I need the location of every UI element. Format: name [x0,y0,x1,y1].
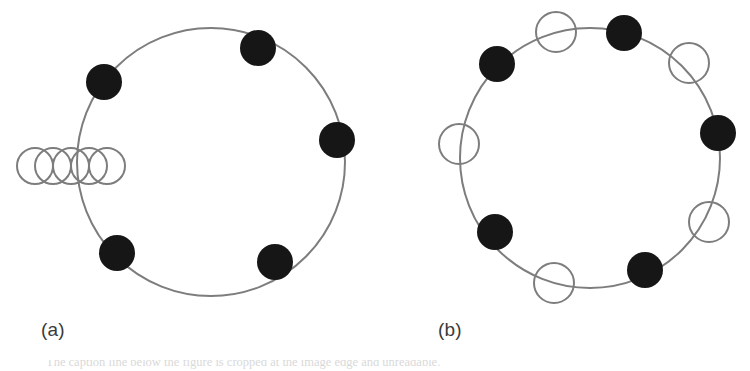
filled-node-b-1 [606,15,642,51]
filled-node-b-3 [627,252,663,288]
panel-a-label: (a) [41,320,65,339]
figure-canvas [0,0,750,371]
panel-a-graphic [17,28,355,296]
filled-node-a-1 [240,30,276,66]
filled-node-a-2 [319,122,355,158]
filled-node-b-2 [700,115,736,151]
caption-strip: The caption line below the figure is cro… [0,360,750,371]
panel-b-graphic [439,12,736,303]
filled-node-b-5 [479,46,515,82]
open-node-b-2 [669,43,709,83]
filled-node-a-3 [257,244,293,280]
filled-node-b-4 [477,214,513,250]
caption-clipped-text: The caption line below the figure is cro… [46,360,706,369]
filled-node-a-4 [99,235,135,271]
figure-container: (a) (b) The caption line below the figur… [0,0,750,371]
filled-node-a-5 [86,64,122,100]
panel-b-label: (b) [438,320,462,339]
